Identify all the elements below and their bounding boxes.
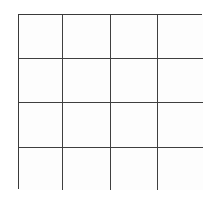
grid-cell[interactable] [19,15,63,59]
grid-figure [18,14,202,189]
grid-cell[interactable] [63,103,111,148]
grid-cell[interactable] [111,148,158,190]
grid-cell[interactable] [19,59,63,103]
grid-cell[interactable] [19,103,63,148]
grid-cell[interactable] [63,59,111,103]
grid-canvas [0,0,219,204]
grid-cell[interactable] [19,148,63,190]
grid-cell[interactable] [158,15,203,59]
grid-cell[interactable] [63,15,111,59]
grid-cell[interactable] [111,103,158,148]
grid-cell[interactable] [158,103,203,148]
grid-cell[interactable] [158,59,203,103]
grid-cell[interactable] [158,148,203,190]
grid-cell[interactable] [63,148,111,190]
grid-cell[interactable] [111,15,158,59]
grid-cell[interactable] [111,59,158,103]
